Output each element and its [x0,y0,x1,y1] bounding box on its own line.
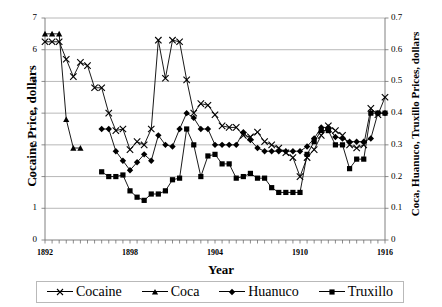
gridlines [45,18,385,208]
diamond-marker-icon [219,286,245,298]
legend-item-truxillo[interactable]: Truxillo [319,285,393,299]
legend-item-coca[interactable]: Coca [142,285,200,299]
triangle-marker-icon [142,286,168,298]
y-axis-right-ticks [385,18,389,240]
y-axis-left-title: Cocaine Price, dollars [24,16,40,236]
chart-figure: 01234567 00.10.20.30.40.50.60.7 18921898… [0,0,442,307]
series-coca [42,31,84,151]
x-tick-1898: 1898 [110,248,150,257]
y-right-tick-0: 0 [391,234,417,244]
plot-canvas [0,0,442,307]
x-marker-icon [47,286,73,298]
square-marker-icon [319,286,345,298]
legend-item-huanuco[interactable]: Huanuco [219,285,299,299]
y-axis-left-ticks [42,18,46,240]
chart-legend: CocaineCocaHuanucoTruxillo [36,281,404,303]
legend-label: Huanuco [248,285,299,299]
x-tick-1916: 1916 [365,248,405,257]
x-axis-ticks [45,240,385,244]
x-axis-title: Year [0,262,442,278]
x-tick-1910: 1910 [280,248,320,257]
series-cocaine [42,37,388,180]
legend-label: Cocaine [76,285,122,299]
x-tick-1892: 1892 [25,248,65,257]
legend-label: Coca [171,285,200,299]
data-series-layer [42,31,388,203]
legend-label: Truxillo [348,285,393,299]
legend-item-cocaine[interactable]: Cocaine [47,285,122,299]
series-huanuco [98,110,388,173]
y-axis-right-title: Coca, Huanuco, Truxillo Prices, dollars [409,14,421,234]
x-tick-1904: 1904 [195,248,235,257]
